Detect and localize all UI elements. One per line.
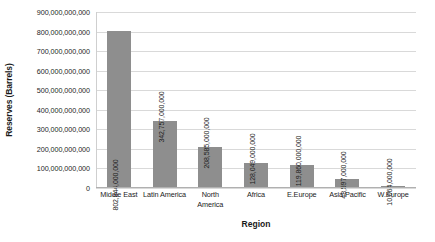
bar-chart: Reserves (Barrels) 0100,000,000,000200,0… bbox=[0, 0, 435, 242]
x-axis-line bbox=[96, 187, 416, 188]
bar-value-label: 208,585,000,000 bbox=[203, 118, 210, 169]
bar[interactable]: 128,049,000,000 bbox=[244, 163, 268, 188]
x-axis-tick-label-line: E.Europe bbox=[279, 190, 325, 200]
x-axis-tick-label-line: North bbox=[187, 190, 233, 200]
x-axis-tick-label: W.Europe bbox=[370, 190, 416, 216]
x-axis-tick-label: Asia Pacific bbox=[325, 190, 371, 216]
y-axis-tick-label: 400,000,000,000 bbox=[37, 105, 90, 114]
bar-series: 802,844,000,000342,757,000,000208,585,00… bbox=[96, 12, 416, 188]
x-axis-tick-labels: Middle EastLatin AmericaNorthAmericaAfri… bbox=[96, 190, 416, 216]
bar-slot: 128,049,000,000 bbox=[233, 12, 279, 188]
x-axis-tick-label-line: Latin America bbox=[142, 190, 188, 200]
y-axis-title-text: Reserves (Barrels) bbox=[4, 63, 14, 136]
bar-slot: 802,844,000,000 bbox=[96, 12, 142, 188]
x-axis-tick-label: NorthAmerica bbox=[187, 190, 233, 216]
bar-slot: 119,860,000,000 bbox=[279, 12, 325, 188]
x-axis-tick-label: E.Europe bbox=[279, 190, 325, 216]
y-axis-tick-label: 100,000,000,000 bbox=[37, 164, 90, 173]
bar-slot: 48,597,000,000 bbox=[325, 12, 371, 188]
bar-slot: 342,757,000,000 bbox=[142, 12, 188, 188]
bar-value-label: 128,049,000,000 bbox=[249, 133, 256, 184]
x-axis-tick-label-line: Africa bbox=[233, 190, 279, 200]
y-axis-tick-label: 700,000,000,000 bbox=[37, 47, 90, 56]
y-axis-tick-labels: 0100,000,000,000200,000,000,000300,000,0… bbox=[16, 12, 94, 188]
x-axis-tick-label-line: America bbox=[187, 200, 233, 210]
y-axis-tick-label: 300,000,000,000 bbox=[37, 125, 90, 134]
y-axis-tick-label: 900,000,000,000 bbox=[37, 8, 90, 17]
bar-slot: 208,585,000,000 bbox=[187, 12, 233, 188]
y-axis-tick-label: 200,000,000,000 bbox=[37, 144, 90, 153]
x-axis-tick-label-line: Asia Pacific bbox=[325, 190, 371, 200]
bar-value-label: 342,757,000,000 bbox=[158, 91, 165, 142]
y-axis-tick-label: 600,000,000,000 bbox=[37, 66, 90, 75]
bar-value-label: 119,860,000,000 bbox=[295, 135, 302, 186]
x-axis-tick-label-line: W.Europe bbox=[370, 190, 416, 200]
y-axis-tick-label: 0 bbox=[86, 184, 90, 193]
bar[interactable]: 342,757,000,000 bbox=[153, 121, 177, 188]
plot-area: 802,844,000,000342,757,000,000208,585,00… bbox=[96, 12, 416, 188]
y-axis-tick-label: 500,000,000,000 bbox=[37, 86, 90, 95]
bar-slot: 10,064,000,000 bbox=[370, 12, 416, 188]
bar[interactable]: 208,585,000,000 bbox=[198, 147, 222, 188]
bar[interactable]: 802,844,000,000 bbox=[107, 31, 131, 188]
bar[interactable]: 119,860,000,000 bbox=[290, 165, 314, 188]
y-axis-tick-label: 800,000,000,000 bbox=[37, 27, 90, 36]
gridline bbox=[96, 188, 416, 189]
x-axis-tick-label-line: Middle East bbox=[96, 190, 142, 200]
x-axis-tick-label: Africa bbox=[233, 190, 279, 216]
x-axis-title: Region bbox=[96, 219, 416, 229]
x-axis-tick-label: Latin America bbox=[142, 190, 188, 216]
x-axis-tick-label: Middle East bbox=[96, 190, 142, 216]
